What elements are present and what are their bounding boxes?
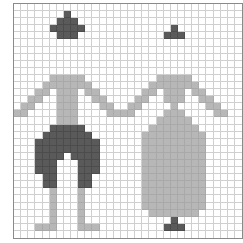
grid-cell-empty (85, 117, 92, 124)
grid-cell-empty (221, 61, 228, 68)
grid-cell-empty (21, 146, 28, 153)
grid-cell-empty (135, 75, 142, 82)
grid-cell-empty (121, 18, 128, 25)
grid-cell-empty (57, 188, 64, 195)
grid-cell-empty (43, 32, 50, 39)
grid-cell-empty (185, 110, 192, 117)
grid-cell-empty (14, 224, 21, 231)
grid-cell-empty (121, 210, 128, 217)
grid-cell-light (64, 110, 71, 117)
grid-cell-empty (157, 4, 164, 11)
grid-cell-empty (35, 117, 42, 124)
grid-cell-empty (221, 47, 228, 54)
grid-cell-light (149, 82, 156, 89)
grid-cell-empty (206, 47, 213, 54)
grid-cell-empty (206, 181, 213, 188)
grid-cell-empty (142, 39, 149, 46)
grid-cell-empty (64, 195, 71, 202)
grid-cell-empty (228, 89, 235, 96)
grid-cell-empty (28, 188, 35, 195)
grid-cell-empty (121, 174, 128, 181)
grid-cell-empty (185, 217, 192, 224)
grid-cell-empty (114, 195, 121, 202)
grid-cell-dark (43, 181, 50, 188)
grid-cell-empty (185, 25, 192, 32)
grid-cell-empty (100, 110, 107, 117)
grid-cell-light (192, 174, 199, 181)
grid-cell-empty (206, 224, 213, 231)
grid-cell-light (78, 210, 85, 217)
grid-cell-empty (135, 82, 142, 89)
grid-cell-empty (107, 11, 114, 18)
grid-cell-empty (157, 54, 164, 61)
grid-cell-empty (100, 146, 107, 153)
grid-cell-light (149, 195, 156, 202)
grid-cell-empty (128, 61, 135, 68)
grid-cell-empty (214, 75, 221, 82)
grid-cell-empty (121, 139, 128, 146)
grid-cell-empty (149, 54, 156, 61)
grid-cell-empty (107, 160, 114, 167)
grid-cell-empty (35, 217, 42, 224)
grid-cell-empty (214, 132, 221, 139)
grid-cell-empty (178, 217, 185, 224)
grid-cell-empty (235, 18, 242, 25)
grid-cell-light (171, 203, 178, 210)
grid-cell-light (192, 153, 199, 160)
grid-cell-light (92, 96, 99, 103)
grid-cell-empty (178, 54, 185, 61)
grid-cell-empty (121, 167, 128, 174)
grid-cell-light (149, 89, 156, 96)
grid-cell-empty (142, 224, 149, 231)
grid-cell-dark (43, 153, 50, 160)
grid-cell-empty (157, 11, 164, 18)
grid-cell-empty (142, 125, 149, 132)
grid-cell-light (64, 75, 71, 82)
grid-cell-empty (235, 110, 242, 117)
grid-cell-empty (135, 210, 142, 217)
grid-cell-empty (78, 39, 85, 46)
grid-cell-light (164, 82, 171, 89)
grid-cell-empty (214, 217, 221, 224)
grid-cell-empty (78, 110, 85, 117)
grid-cell-empty (107, 125, 114, 132)
grid-cell-light (171, 139, 178, 146)
grid-cell-light (178, 167, 185, 174)
grid-cell-light (171, 125, 178, 132)
grid-cell-empty (178, 4, 185, 11)
grid-cell-dark (171, 25, 178, 32)
grid-cell-empty (43, 47, 50, 54)
grid-cell-empty (71, 61, 78, 68)
grid-cell-dark (43, 160, 50, 167)
grid-cell-empty (14, 160, 21, 167)
grid-cell-empty (50, 89, 57, 96)
grid-cell-empty (107, 4, 114, 11)
grid-cell-empty (92, 68, 99, 75)
grid-cell-empty (64, 47, 71, 54)
grid-cell-empty (228, 146, 235, 153)
grid-cell-empty (64, 217, 71, 224)
grid-cell-empty (164, 39, 171, 46)
grid-cell-light (142, 96, 149, 103)
grid-cell-dark (64, 32, 71, 39)
grid-cell-empty (71, 39, 78, 46)
grid-cell-empty (85, 39, 92, 46)
grid-cell-empty (228, 167, 235, 174)
grid-cell-light (135, 96, 142, 103)
grid-cell-empty (228, 153, 235, 160)
grid-cell-empty (135, 160, 142, 167)
grid-cell-empty (178, 68, 185, 75)
grid-cell-empty (199, 110, 206, 117)
grid-cell-dark (43, 132, 50, 139)
grid-cell-empty (235, 39, 242, 46)
grid-cell-empty (199, 75, 206, 82)
grid-cell-empty (50, 103, 57, 110)
grid-cell-light (199, 89, 206, 96)
grid-cell-empty (221, 181, 228, 188)
grid-cell-empty (206, 61, 213, 68)
grid-cell-empty (100, 217, 107, 224)
grid-cell-empty (235, 82, 242, 89)
grid-cell-empty (149, 4, 156, 11)
grid-cell-empty (28, 117, 35, 124)
grid-cell-empty (71, 11, 78, 18)
